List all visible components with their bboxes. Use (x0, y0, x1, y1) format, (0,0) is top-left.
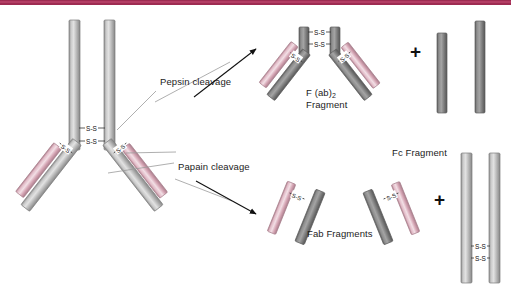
plus-sign-bottom: + (434, 190, 445, 209)
svg-text:S-S: S-S (86, 138, 98, 145)
fab-right-light-chain (391, 181, 420, 234)
fc-peptide-2 (475, 21, 485, 113)
fc-chain-left (461, 153, 472, 283)
label-fab2-fragment-line2: Fragment (306, 99, 347, 111)
fc-disulfide-bond-2: S-S (471, 254, 490, 262)
pepsin-fc-peptides (437, 21, 485, 113)
plus-sign-top: + (410, 42, 421, 61)
fab-left-light-chain (267, 181, 296, 234)
label-fab2-fragment-line1: F (ab)2 (306, 87, 336, 100)
hinge-disulfide-bond-1: S-S (79, 124, 105, 132)
pepsin-arrow (194, 49, 256, 97)
fc-peptide-1 (437, 33, 447, 113)
fab2-hinge-bond-2: S-S (308, 40, 331, 48)
svg-text:S-S: S-S (86, 125, 98, 132)
svg-text:S-S: S-S (314, 29, 326, 36)
hinge-disulfide-bond-2: S-S (79, 137, 105, 145)
svg-text:S-S: S-S (314, 41, 326, 48)
intact-antibody: S-S S-S S-S S-S (16, 20, 168, 211)
fc-fragment: S-S S-S (461, 153, 500, 283)
leader-line-pepsin (117, 62, 230, 130)
svg-text:S-S: S-S (475, 255, 487, 262)
label-fab-fragments: Fab Fragments (307, 228, 373, 240)
fc-disulfide-bond-1: S-S (471, 242, 490, 250)
fc-chain-right (489, 153, 500, 283)
svg-text:S-S: S-S (475, 243, 487, 250)
diagram-canvas: S-S S-S S-S S-S (0, 0, 511, 292)
top-accent-bar-highlight (0, 1, 511, 3)
label-fc-fragment: Fc Fragment (392, 147, 447, 159)
fab2-subscript: 2 (332, 92, 336, 99)
fab2-text: F (ab) (306, 87, 332, 98)
fab2-hinge-bond-1: S-S (308, 28, 331, 36)
papain-arrow (196, 181, 256, 214)
label-papain-cleavage: Papain cleavage (178, 161, 250, 173)
label-pepsin-cleavage: Pepsin cleavage (160, 76, 231, 88)
